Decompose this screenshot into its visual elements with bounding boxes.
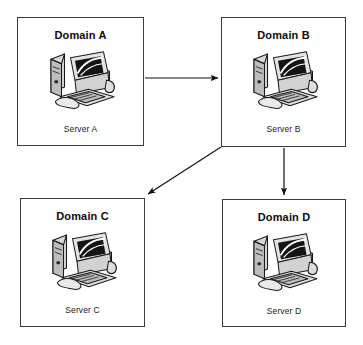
domain-d-title: Domain D	[223, 211, 345, 223]
domain-a-title: Domain A	[18, 29, 143, 41]
domain-b-title: Domain B	[222, 29, 345, 41]
diagram-canvas: Domain A	[0, 0, 363, 345]
domain-b-server-label: Server B	[222, 124, 345, 134]
domain-a-computer-icon	[18, 50, 143, 112]
domain-d-server-label: Server D	[223, 306, 345, 316]
domain-c-server-label: Server C	[21, 305, 144, 315]
connector-b-to-c	[148, 147, 221, 194]
domain-box-c[interactable]: Domain C	[20, 198, 145, 327]
domain-box-a[interactable]: Domain A	[17, 17, 144, 146]
domain-b-computer-icon	[222, 50, 345, 112]
domain-c-title: Domain C	[21, 210, 144, 222]
domain-d-computer-icon	[223, 232, 345, 294]
domain-box-d[interactable]: Domain D	[222, 199, 346, 327]
domain-a-server-label: Server A	[18, 124, 143, 134]
domain-box-b[interactable]: Domain B	[221, 17, 346, 147]
domain-c-computer-icon	[21, 231, 144, 293]
